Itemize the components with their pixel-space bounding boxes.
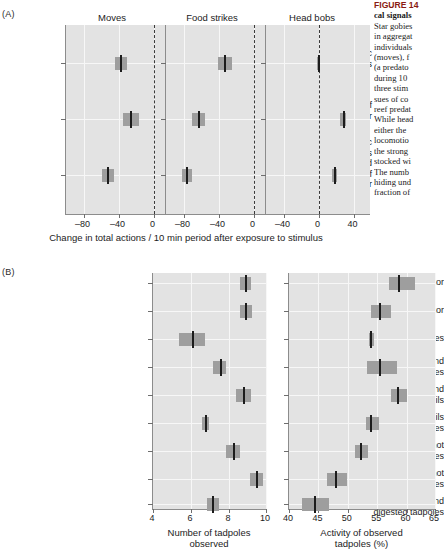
x-tick <box>254 214 255 218</box>
caption-line: Star gobies <box>374 21 444 31</box>
y-tick <box>261 119 266 120</box>
x-tick-label: 0 <box>250 219 255 229</box>
x-tick-label: –40 <box>110 219 125 229</box>
y-tick <box>148 479 153 480</box>
caption-line: hiding und <box>374 177 444 187</box>
chart-head-bobs <box>265 25 370 215</box>
y-tick <box>148 311 153 312</box>
zero-reference-line <box>254 25 255 214</box>
mean-marker <box>233 443 235 460</box>
mean-marker <box>245 303 247 320</box>
gridline <box>153 451 266 452</box>
zero-reference-line <box>319 25 320 214</box>
y-tick <box>148 504 153 505</box>
x-tick-label: 0 <box>150 219 155 229</box>
caption-line: during 10 <box>374 73 444 83</box>
panel-a-tag: (A) <box>2 9 15 19</box>
y-tick <box>148 367 153 368</box>
chart-number-of-tadpoles <box>152 273 266 510</box>
x-tick-label: 40 <box>347 219 357 229</box>
x-tick <box>219 214 220 218</box>
subplot-title-head-bobs: Head bobs <box>262 12 362 23</box>
y-tick <box>148 283 153 284</box>
x-tick <box>284 214 285 218</box>
caption-line: cal signals <box>374 10 444 20</box>
x-tick <box>119 214 120 218</box>
y-tick <box>61 175 66 176</box>
x-tick-label: –80 <box>175 219 190 229</box>
caption-line: The numb <box>374 167 444 177</box>
gridline <box>119 25 120 214</box>
y-tick <box>61 119 66 120</box>
caption-line: sues of co <box>374 94 444 104</box>
y-tick <box>261 175 266 176</box>
gridline <box>84 25 85 214</box>
mean-marker <box>334 167 336 184</box>
caption-line: While head <box>374 114 444 124</box>
x-tick-label: –80 <box>75 219 90 229</box>
caption-line: in aggregat <box>374 31 444 41</box>
y-tick <box>284 367 289 368</box>
mean-marker <box>205 415 207 432</box>
mean-marker <box>198 111 200 128</box>
gridline <box>318 273 319 509</box>
axis-label-line: Number of tadpoles <box>152 527 266 538</box>
caption-line: reef predat <box>374 104 444 114</box>
panel-b-tag: (B) <box>2 267 15 277</box>
mean-marker <box>243 387 245 404</box>
caption-line: either the <box>374 125 444 135</box>
mean-marker <box>186 167 188 184</box>
x-tick <box>354 214 355 218</box>
gridline <box>284 25 285 214</box>
chart-moves <box>65 25 170 215</box>
caption-line: stocked wi <box>374 156 444 166</box>
axis-label-line: observed <box>152 538 266 549</box>
x-tick-label: –40 <box>275 219 290 229</box>
figure-area: (A) Moves Food strikes Head bobs Conspec… <box>0 0 372 549</box>
mean-marker <box>212 496 214 513</box>
x-tick-label: 10 <box>260 513 270 523</box>
y-tick <box>284 395 289 396</box>
y-tick <box>148 339 153 340</box>
figure-caption: FIGURE 14 cal signals Star gobies in agg… <box>374 0 444 549</box>
caption-line: FIGURE 14 <box>374 0 444 10</box>
gridline <box>191 273 192 509</box>
x-tick-label: 40 <box>283 513 293 523</box>
y-tick <box>161 63 166 64</box>
y-tick <box>61 63 66 64</box>
x-tick-label: 4 <box>149 513 154 523</box>
x-tick-label: 45 <box>312 513 322 523</box>
gridline <box>153 339 266 340</box>
mean-marker <box>343 111 345 128</box>
caption-line: locomotio <box>374 135 444 145</box>
mean-marker <box>335 471 337 488</box>
y-tick <box>284 423 289 424</box>
mean-marker <box>318 55 320 72</box>
caption-line: individuals <box>374 42 444 52</box>
caption-line: (moves), f <box>374 52 444 62</box>
x-tick <box>154 214 155 218</box>
mean-marker <box>360 443 362 460</box>
mean-marker <box>314 496 316 513</box>
gridline <box>153 423 266 424</box>
x-tick-label: 8 <box>225 513 230 523</box>
mean-marker <box>370 331 372 348</box>
gridline <box>229 273 230 509</box>
x-tick <box>84 214 85 218</box>
gridline <box>219 25 220 214</box>
y-tick <box>148 423 153 424</box>
x-tick <box>319 214 320 218</box>
y-tick <box>284 504 289 505</box>
gridline <box>266 273 267 509</box>
y-tick <box>261 63 266 64</box>
x-tick-label: 0 <box>315 219 320 229</box>
panel-b-left-axis-label: Number of tadpoles observed <box>152 527 266 549</box>
y-tick <box>284 311 289 312</box>
mean-marker <box>192 331 194 348</box>
mean-marker <box>245 275 247 292</box>
x-tick-label: 50 <box>342 513 352 523</box>
gridline <box>153 367 266 368</box>
mean-marker <box>220 359 222 376</box>
panel-a-axis-label: Change in total actions / 10 min period … <box>0 232 372 243</box>
gridline <box>354 25 355 214</box>
